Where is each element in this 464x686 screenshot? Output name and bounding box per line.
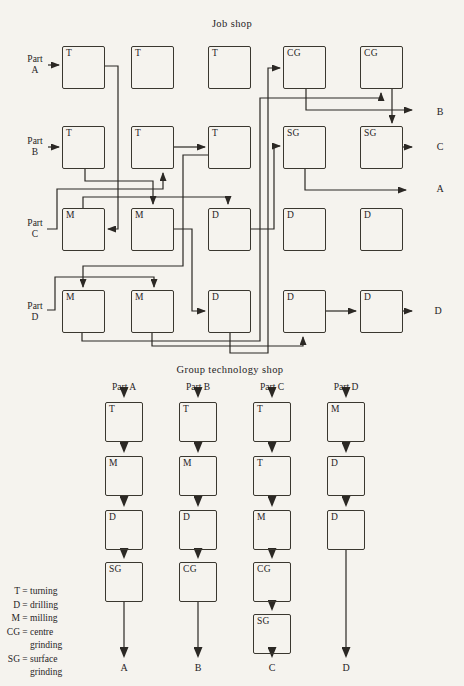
legend-equals: = bbox=[20, 585, 30, 599]
gt-output-label-C: C bbox=[265, 662, 279, 673]
jobshop-machine-r2c1: T bbox=[62, 126, 105, 169]
legend-abbr: D bbox=[4, 599, 20, 613]
legend-item-D: D=drilling bbox=[4, 599, 76, 613]
part-word: Part bbox=[21, 301, 49, 312]
legend: T=turningD=drillingM=millingCG=centre gr… bbox=[4, 585, 76, 680]
gt-machine-A-4-label: SG bbox=[109, 563, 122, 575]
gt-shop-title: Group technology shop bbox=[177, 364, 284, 375]
jobshop-part-in-B: PartB bbox=[21, 136, 49, 158]
legend-abbr: CG bbox=[4, 626, 20, 653]
job-shop-title: Job shop bbox=[212, 18, 252, 29]
gt-machine-D-1-label: M bbox=[331, 403, 340, 415]
legend-definition: centre grinding bbox=[30, 626, 76, 653]
jobshop-machine-r2c1-label: T bbox=[66, 127, 72, 139]
gt-shop-flow-arrows bbox=[124, 391, 346, 656]
gt-machine-B-3-label: D bbox=[183, 511, 190, 523]
jobshop-machine-r2c4: SG bbox=[283, 126, 326, 169]
route-b-m-to-d bbox=[174, 229, 205, 311]
route-a-d-to-sg bbox=[251, 146, 280, 229]
jobshop-machine-r1c4: CG bbox=[283, 46, 326, 89]
jobshop-machine-r4c1-label: M bbox=[66, 291, 75, 303]
jobshop-machine-r3c5-label: D bbox=[364, 209, 371, 221]
gt-machine-B-2: M bbox=[179, 456, 217, 496]
gt-machine-A-1: T bbox=[105, 402, 143, 442]
gt-machine-A-1-label: T bbox=[109, 403, 115, 415]
jobshop-machine-r1c5: CG bbox=[360, 46, 403, 89]
jobshop-machine-r3c3: D bbox=[208, 208, 251, 251]
legend-abbr: M bbox=[4, 612, 20, 626]
jobshop-machine-r4c5: D bbox=[360, 290, 403, 333]
route-a-t-to-m bbox=[105, 66, 118, 229]
legend-definition: turning bbox=[30, 585, 76, 599]
jobshop-output-A: A bbox=[433, 183, 447, 194]
jobshop-machine-r2c3: T bbox=[208, 126, 251, 169]
jobshop-machine-r1c3: T bbox=[208, 46, 251, 89]
jobshop-output-D: D bbox=[431, 305, 445, 316]
gt-machine-A-4: SG bbox=[105, 562, 143, 602]
route-a-out bbox=[305, 169, 406, 190]
gt-machine-D-2-label: D bbox=[331, 457, 338, 469]
jobshop-machine-r1c1-label: T bbox=[66, 47, 72, 59]
jobshop-part-in-D: PartD bbox=[21, 301, 49, 323]
jobshop-machine-r1c4-label: CG bbox=[287, 47, 301, 59]
gt-machine-C-5-label: SG bbox=[257, 615, 270, 627]
legend-item-T: T=turning bbox=[4, 585, 76, 599]
legend-item-M: M=milling bbox=[4, 612, 76, 626]
gt-machine-C-3: M bbox=[253, 510, 291, 550]
part-letter: C bbox=[21, 229, 49, 240]
legend-item-CG: CG=centre grinding bbox=[4, 626, 76, 653]
jobshop-machine-r2c2: T bbox=[131, 126, 174, 169]
jobshop-machine-r4c2-label: M bbox=[135, 291, 144, 303]
jobshop-machine-r3c4: D bbox=[283, 208, 326, 251]
gt-machine-D-2: D bbox=[327, 456, 365, 496]
legend-equals: = bbox=[20, 612, 30, 626]
legend-abbr: SG bbox=[4, 653, 20, 680]
jobshop-part-in-A: PartA bbox=[21, 54, 49, 76]
legend-definition: surface grinding bbox=[30, 653, 76, 680]
jobshop-machine-r2c2-label: T bbox=[135, 127, 141, 139]
gt-machine-C-4-label: CG bbox=[257, 563, 271, 575]
jobshop-machine-r1c3-label: T bbox=[212, 47, 218, 59]
gt-column-label-B: Part B bbox=[176, 382, 220, 392]
route-d-m-to-d bbox=[152, 333, 303, 346]
gt-machine-B-1-label: T bbox=[183, 403, 189, 415]
gt-machine-B-2-label: M bbox=[183, 457, 192, 469]
jobshop-machine-r2c4-label: SG bbox=[287, 127, 300, 139]
jobshop-machine-r1c2: T bbox=[131, 46, 174, 89]
jobshop-machine-r3c1: M bbox=[62, 208, 105, 251]
part-letter: A bbox=[21, 65, 49, 76]
gt-machine-A-3-label: D bbox=[109, 511, 116, 523]
gt-machine-B-4-label: CG bbox=[183, 563, 197, 575]
route-b-out bbox=[306, 89, 412, 110]
jobshop-machine-r4c5-label: D bbox=[364, 291, 371, 303]
gt-machine-C-1: T bbox=[253, 402, 291, 442]
jobshop-output-C: C bbox=[433, 141, 447, 152]
jobshop-machine-r3c4-label: D bbox=[287, 209, 294, 221]
jobshop-machine-r3c3-label: D bbox=[212, 209, 219, 221]
jobshop-machine-r3c5: D bbox=[360, 208, 403, 251]
jobshop-machine-r1c5-label: CG bbox=[364, 47, 378, 59]
gt-machine-C-5: SG bbox=[253, 614, 291, 654]
gt-machine-C-1-label: T bbox=[257, 403, 263, 415]
legend-equals: = bbox=[20, 626, 30, 653]
gt-machine-B-3: D bbox=[179, 510, 217, 550]
gt-output-label-A: A bbox=[117, 662, 131, 673]
gt-machine-A-3: D bbox=[105, 510, 143, 550]
gt-output-label-D: D bbox=[339, 662, 353, 673]
jobshop-machine-r4c2: M bbox=[131, 290, 174, 333]
jobshop-part-in-C: PartC bbox=[21, 218, 49, 240]
jobshop-machine-r4c4-label: D bbox=[287, 291, 294, 303]
jobshop-machine-r2c3-label: T bbox=[212, 127, 218, 139]
jobshop-machine-r3c2-label: M bbox=[135, 209, 144, 221]
gt-column-label-A: Part A bbox=[102, 382, 146, 392]
part-word: Part bbox=[21, 218, 49, 229]
part-letter: D bbox=[21, 312, 49, 323]
legend-abbr: T bbox=[4, 585, 20, 599]
legend-definition: milling bbox=[30, 612, 76, 626]
part-letter: B bbox=[21, 147, 49, 158]
legend-equals: = bbox=[20, 653, 30, 680]
gt-machine-C-3-label: M bbox=[257, 511, 266, 523]
part-word: Part bbox=[21, 54, 49, 65]
legend-definition: drilling bbox=[30, 599, 76, 613]
route-a-m-to-d bbox=[83, 197, 228, 208]
